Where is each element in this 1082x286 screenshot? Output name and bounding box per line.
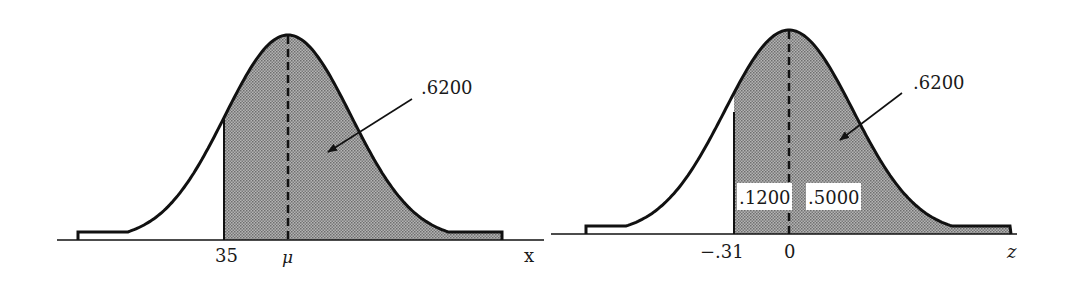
left-tick-mu: μ <box>282 247 293 267</box>
left-area-label: .6200 <box>421 77 473 98</box>
right-tick-0: 0 <box>784 241 795 262</box>
right-panel-standard-normal-curve-z: .1200 .5000 .6200 −.31 0 z <box>551 30 1017 262</box>
right-area-label: .6200 <box>913 72 965 93</box>
right-axis-label-z: z <box>1006 241 1017 262</box>
right-sub-area-label-left: .1200 <box>739 187 791 208</box>
normal-distribution-figure: .6200 35 μ x .1200 .5000 .6200 −.31 0 z <box>0 0 1082 286</box>
left-axis-label-x: x <box>524 245 534 266</box>
right-sub-area-label-right: .5000 <box>808 187 860 208</box>
left-tick-35: 35 <box>215 245 238 266</box>
right-tick-neg031: −.31 <box>700 241 744 262</box>
left-panel-normal-curve-x: .6200 35 μ x <box>57 35 544 267</box>
